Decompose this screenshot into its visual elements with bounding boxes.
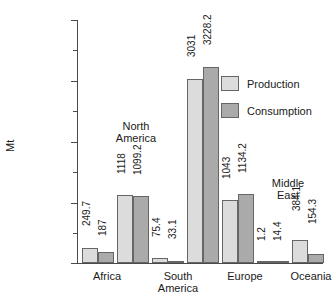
- group-label-middle-east: Middle East: [260, 177, 316, 201]
- bar-label-north-america-production: 1118: [116, 153, 127, 174]
- group-label-europe: Europe: [217, 270, 273, 282]
- bar-south-america-production[interactable]: [152, 258, 168, 263]
- group-label-north-america-line2: America: [105, 132, 167, 144]
- group-label-middle-east-line1: Middle: [260, 177, 316, 189]
- bar-south-america-consumption[interactable]: [168, 261, 184, 263]
- group-label-south-america-line1: South: [148, 270, 208, 282]
- bar-label-africa-production: 249.7: [81, 201, 92, 226]
- bar-label-south-america-production: 75.4: [151, 218, 162, 237]
- plot-area: 249.7 187 1118 1099.2 North America 75.4…: [78, 20, 323, 263]
- legend-swatch-production-icon: [221, 76, 239, 91]
- bar-label-europe-production: 1043: [221, 157, 232, 179]
- y-axis-title-text: Mt: [4, 140, 16, 152]
- bar-label-africa-consumption: 187: [97, 219, 108, 236]
- bar-north-america-production[interactable]: [117, 195, 133, 263]
- y-axis-title: Mt: [8, 132, 24, 156]
- bar-oceania-production[interactable]: [292, 240, 308, 263]
- group-label-south-america: South America: [148, 270, 208, 294]
- bar-europe-consumption[interactable]: [238, 194, 254, 263]
- legend-swatch-consumption-icon: [221, 103, 239, 118]
- bar-middle-east-production[interactable]: [257, 261, 273, 263]
- bar-middle-east-consumption[interactable]: [273, 261, 289, 263]
- bar-label-south-america-consumption: 33.1: [167, 220, 178, 239]
- group-label-north-america: North America: [105, 120, 167, 144]
- legend: Production Consumption: [221, 76, 312, 130]
- bar-europe-production[interactable]: [222, 200, 238, 263]
- bar-label-oceania-production: 384.1: [291, 186, 302, 211]
- group-label-south-america-line2: America: [148, 282, 208, 294]
- bar-north-america-consumption[interactable]: [133, 196, 149, 263]
- bar-label-asia-consumption: 3228.2: [202, 14, 213, 45]
- legend-label-production: Production: [247, 78, 300, 90]
- bar-label-middle-east-production: 1.2: [256, 227, 267, 241]
- bar-africa-production[interactable]: [82, 248, 98, 263]
- legend-item-consumption[interactable]: Consumption: [221, 103, 312, 118]
- legend-label-consumption: Consumption: [247, 105, 312, 117]
- bar-africa-consumption[interactable]: [98, 252, 114, 263]
- legend-item-production[interactable]: Production: [221, 76, 312, 91]
- group-label-africa: Africa: [78, 270, 136, 282]
- group-label-north-america-line1: North: [105, 120, 167, 132]
- bar-asia-production[interactable]: [187, 79, 203, 263]
- bar-label-north-america-consumption: 1099.2: [132, 144, 143, 175]
- bar-oceania-consumption[interactable]: [308, 254, 324, 263]
- bar-label-oceania-consumption: 154.3: [307, 199, 318, 224]
- bar-label-europe-consumption: 1134.2: [237, 143, 248, 173]
- group-label-oceania: Oceania: [283, 270, 336, 282]
- bar-label-asia-production: 3031: [186, 35, 197, 57]
- bar-asia-consumption[interactable]: [203, 67, 219, 263]
- x-axis-line: [77, 263, 323, 264]
- bar-label-middle-east-consumption: 14.4: [272, 222, 283, 241]
